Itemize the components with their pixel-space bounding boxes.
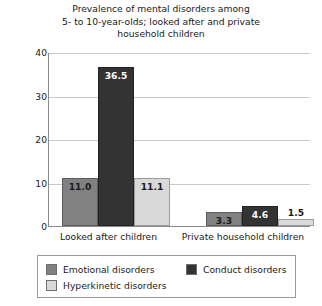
- bar-value-private-household-hyperkinetic: 1.5: [279, 207, 313, 218]
- chart-title-line-1: Prevalence of mental disorders among: [18, 3, 304, 16]
- bar-value-private-household-emotional: 3.3: [207, 215, 241, 226]
- chart-title-line-3: household children: [18, 28, 304, 41]
- bar-looked-after-hyperkinetic[interactable]: 11.1: [134, 178, 170, 226]
- gridline-20: [49, 140, 310, 141]
- legend-entry-hyperkinetic-disorders[interactable]: Hyperkinetic disorders: [46, 280, 186, 291]
- bar-private-household-hyperkinetic[interactable]: 1.5: [278, 219, 314, 226]
- x-category-label-private-household: Private household children: [176, 231, 310, 242]
- legend-row-2: Hyperkinetic disorders: [46, 277, 295, 293]
- bar-value-looked-after-emotional: 11.0: [63, 181, 97, 192]
- bar-value-looked-after-hyperkinetic: 11.1: [135, 181, 169, 192]
- legend-swatch-conduct-icon: [186, 264, 197, 275]
- bar-value-looked-after-conduct: 36.5: [99, 70, 133, 81]
- chart-title-line-2: 5- to 10-year-olds; looked after and pri…: [18, 16, 304, 29]
- y-tick-label-0: 0: [5, 221, 47, 232]
- legend-row-1: Emotional disorders Conduct disorders: [46, 261, 295, 277]
- legend-label-conduct-disorders: Conduct disorders: [203, 264, 287, 275]
- bar-private-household-conduct[interactable]: 4.6: [242, 206, 278, 226]
- y-tick-label-20: 20: [5, 134, 47, 145]
- legend-swatch-emotional-icon: [46, 264, 57, 275]
- y-tick-label-10: 10: [5, 178, 47, 189]
- legend-entry-emotional-disorders[interactable]: Emotional disorders: [46, 264, 186, 275]
- y-tick-label-40: 40: [5, 47, 47, 58]
- chart-title: Prevalence of mental disorders among 5- …: [18, 3, 304, 41]
- chart-legend: Emotional disorders Conduct disorders Hy…: [37, 255, 296, 298]
- legend-label-emotional-disorders: Emotional disorders: [63, 264, 155, 275]
- legend-label-hyperkinetic-disorders: Hyperkinetic disorders: [63, 280, 167, 291]
- gridline-40: [49, 53, 310, 54]
- legend-entry-conduct-disorders[interactable]: Conduct disorders: [186, 264, 287, 275]
- legend-swatch-hyperkinetic-icon: [46, 280, 57, 291]
- bar-looked-after-conduct[interactable]: 36.5: [98, 67, 134, 226]
- gridline-30: [49, 97, 310, 98]
- x-category-label-looked-after: Looked after children: [48, 231, 169, 242]
- bar-value-private-household-conduct: 4.6: [243, 209, 277, 220]
- bar-private-household-emotional[interactable]: 3.3: [206, 212, 242, 226]
- plot-area: 40 30 20 10 0 11.0 36.5 11.1 3.3 4.6 1.5: [48, 53, 310, 227]
- y-tick-label-30: 30: [5, 91, 47, 102]
- bar-looked-after-emotional[interactable]: 11.0: [62, 178, 98, 226]
